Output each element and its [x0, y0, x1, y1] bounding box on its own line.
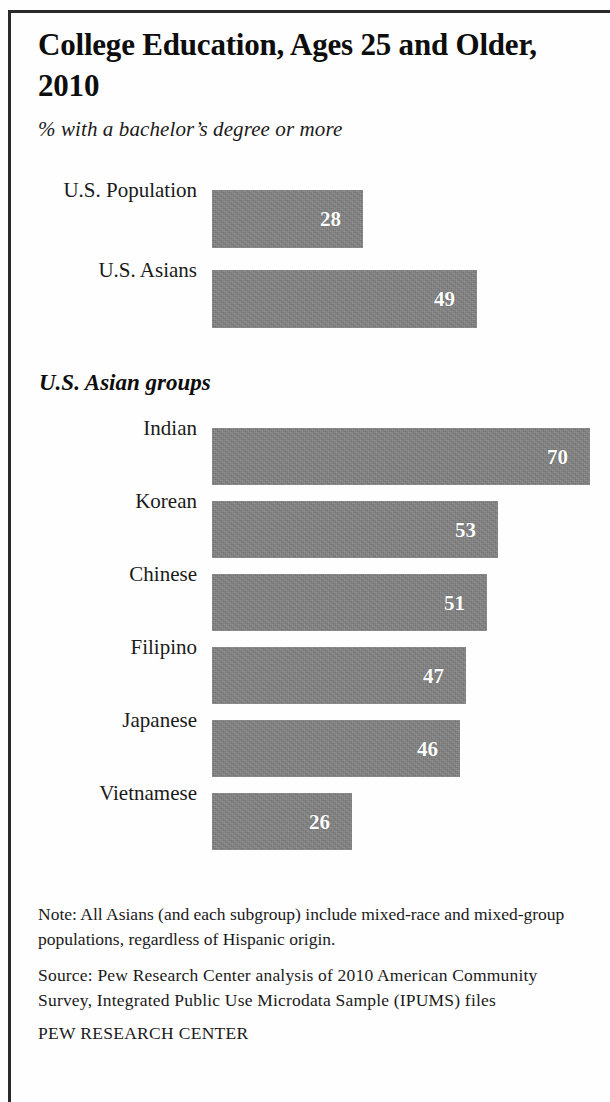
bar-row: U.S. Population28	[0, 190, 610, 248]
bar-track: 28	[212, 190, 363, 248]
bar-fill: 46	[212, 720, 460, 777]
note-text: Note: All Asians (and each subgroup) inc…	[38, 902, 578, 952]
bar-fill: 70	[212, 428, 590, 485]
bar-value-label: 49	[434, 287, 455, 312]
bar-fill: 51	[212, 574, 487, 631]
bar-category-label: Filipino	[0, 619, 197, 676]
bar-fill: 53	[212, 501, 498, 558]
pew-chart-figure: College Education, Ages 25 and Older, 20…	[0, 0, 610, 1102]
bar-row: Vietnamese26	[0, 793, 610, 850]
source-text: Source: Pew Research Center analysis of …	[38, 963, 578, 1013]
bar-track: 47	[212, 647, 466, 704]
bar-value-label: 28	[320, 207, 341, 232]
bar-value-label: 53	[455, 517, 476, 542]
bar-track: 53	[212, 501, 498, 558]
bar-value-label: 51	[444, 590, 465, 615]
bar-value-label: 26	[309, 809, 330, 834]
bar-fill: 26	[212, 793, 352, 850]
bar-category-label: Japanese	[0, 692, 197, 749]
bar-fill: 49	[212, 270, 477, 328]
bar-track: 46	[212, 720, 460, 777]
bar-track: 51	[212, 574, 487, 631]
footnotes: Note: All Asians (and each subgroup) inc…	[38, 902, 578, 1044]
bar-value-label: 70	[547, 444, 568, 469]
chart-content: College Education, Ages 25 and Older, 20…	[0, 0, 610, 1102]
chart-subtitle: % with a bachelor’s degree or more	[38, 117, 558, 142]
bar-value-label: 46	[417, 736, 438, 761]
bar-category-label: Chinese	[0, 546, 197, 603]
bar-category-label: Korean	[0, 473, 197, 530]
page-title: College Education, Ages 25 and Older, 20…	[38, 24, 558, 106]
bar-value-label: 47	[423, 663, 444, 688]
section-header-us-asian-groups: U.S. Asian groups	[39, 370, 211, 396]
bar-track: 70	[212, 428, 590, 485]
bar-track: 49	[212, 270, 477, 328]
bar-category-label: Indian	[0, 400, 197, 457]
bar-track: 26	[212, 793, 352, 850]
bar-category-label: Vietnamese	[0, 765, 197, 822]
bar-category-label: U.S. Asians	[0, 241, 197, 299]
pew-research-center-credit: PEW RESEARCH CENTER	[38, 1023, 578, 1044]
bar-category-label: U.S. Population	[0, 161, 197, 219]
bar-fill: 47	[212, 647, 466, 704]
bar-fill: 28	[212, 190, 363, 248]
bar-row: U.S. Asians49	[0, 270, 610, 328]
